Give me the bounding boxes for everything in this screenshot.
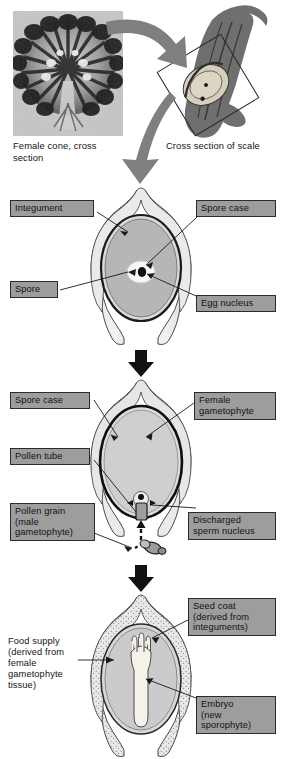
- label-embryo[interactable]: Embryo (new sporophyte): [196, 696, 276, 734]
- label-seed-coat[interactable]: Seed coat (derived from integuments): [188, 598, 276, 636]
- conifer-seed-development-figure: Female cone, cross section Cross section…: [0, 0, 282, 759]
- label-food-supply: Food supply (derived from female gametop…: [8, 636, 92, 691]
